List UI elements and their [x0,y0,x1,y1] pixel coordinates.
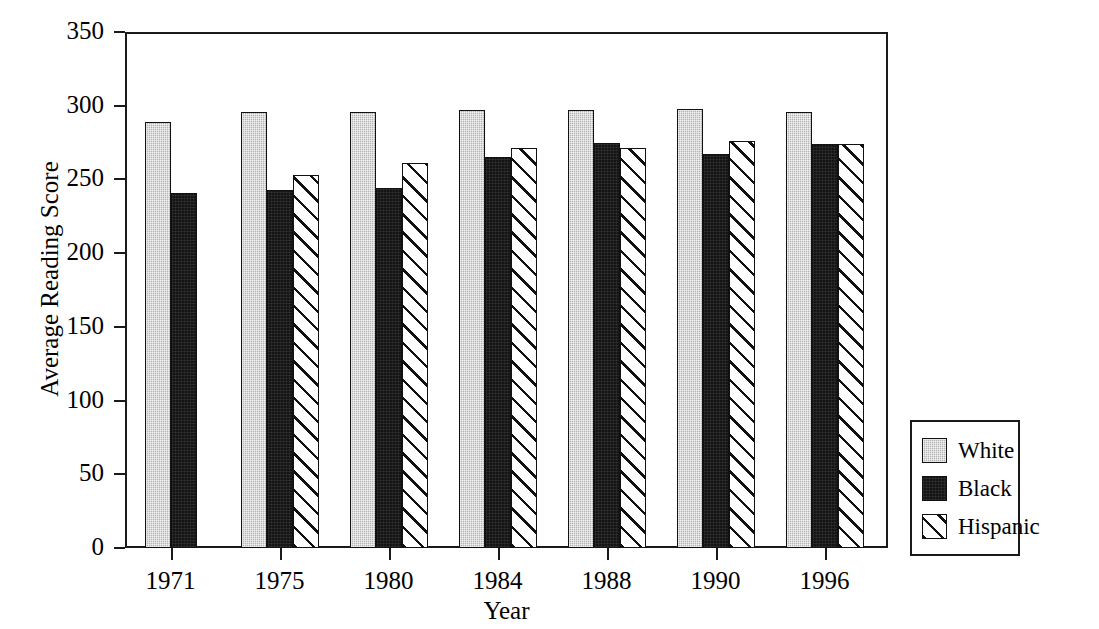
bar-chart: 050100150200250300350 197119751980198419… [0,0,1099,629]
bar-hispanic-1990[interactable] [729,141,755,548]
x-axis-tick [825,548,827,560]
bar-black-1996[interactable] [812,144,838,548]
y-axis-tick-label: 350 [0,18,104,43]
x-axis-tick [716,548,718,560]
x-axis-tick-label: 1980 [329,566,449,596]
bar-white-1990[interactable] [677,109,703,548]
legend-item-white[interactable]: White [922,431,1018,469]
bar-black-1975[interactable] [267,190,293,548]
y-axis-tick-label: 0 [0,534,104,559]
legend: White Black Hispanic [910,420,1020,556]
bar-white-1984[interactable] [459,110,485,548]
x-axis-tick-label: 1975 [220,566,340,596]
legend-swatch-white-icon [922,438,947,463]
bar-black-1984[interactable] [485,157,511,548]
y-axis-tick [114,400,125,402]
x-axis-tick [389,548,391,560]
y-axis-tick [114,473,125,475]
bar-black-1988[interactable] [594,143,620,548]
bar-hispanic-1996[interactable] [838,144,864,548]
legend-swatch-hispanic-icon [922,514,947,539]
bar-hispanic-1984[interactable] [511,148,537,548]
bar-black-1980[interactable] [376,188,402,548]
y-axis-title: Average Reading Score [36,129,64,429]
x-axis-tick-label: 1984 [438,566,558,596]
legend-item-hispanic[interactable]: Hispanic [922,507,1018,545]
y-axis-tick [114,326,125,328]
legend-label-black: Black [958,476,1012,501]
bar-white-1996[interactable] [786,112,812,548]
legend-label-white: White [958,438,1014,463]
x-axis-tick-label: 1996 [765,566,885,596]
x-axis-tick [498,548,500,560]
y-axis-tick [114,105,125,107]
y-axis-tick-label: 300 [0,92,104,117]
bar-black-1990[interactable] [703,154,729,548]
legend-item-black[interactable]: Black [922,469,1018,507]
x-axis-tick [171,548,173,560]
x-axis-tick-label: 1988 [547,566,667,596]
y-axis-tick [114,547,125,549]
legend-swatch-black-icon [922,476,947,501]
bar-white-1975[interactable] [241,112,267,548]
bar-white-1980[interactable] [350,112,376,548]
bar-hispanic-1988[interactable] [620,148,646,548]
y-axis-tick [114,31,125,33]
x-axis-tick [280,548,282,560]
x-axis-title: Year [125,597,888,625]
bar-hispanic-1975[interactable] [293,175,319,548]
x-axis-tick-label: 1971 [111,566,231,596]
bar-hispanic-1980[interactable] [402,163,428,548]
legend-label-hispanic: Hispanic [958,514,1040,539]
y-axis-tick [114,252,125,254]
bars-layer [125,32,888,548]
y-axis-tick [114,178,125,180]
y-axis-tick-label: 50 [0,460,104,485]
bar-white-1988[interactable] [568,110,594,548]
x-axis-tick-label: 1990 [656,566,776,596]
bar-white-1971[interactable] [145,122,171,548]
x-axis-tick [607,548,609,560]
bar-black-1971[interactable] [171,193,197,548]
